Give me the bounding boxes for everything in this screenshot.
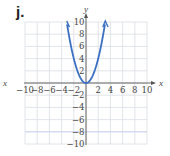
svg-text:2: 2 xyxy=(95,85,100,95)
svg-text:2: 2 xyxy=(79,66,84,76)
svg-text:6: 6 xyxy=(120,85,125,95)
parabola-chart: xxy −10−8−6−4−2246810−10−8−6−4−2246810 xyxy=(0,0,170,156)
svg-text:−8: −8 xyxy=(72,127,85,137)
svg-text:6: 6 xyxy=(79,41,84,51)
svg-text:−4: −4 xyxy=(72,102,85,112)
svg-text:−4: −4 xyxy=(55,85,68,95)
svg-text:−8: −8 xyxy=(31,85,44,95)
svg-text:−10: −10 xyxy=(67,139,85,149)
svg-text:8: 8 xyxy=(79,29,84,39)
svg-text:−2: −2 xyxy=(72,90,85,100)
svg-text:−6: −6 xyxy=(43,85,56,95)
parabola-curve xyxy=(67,21,108,83)
svg-text:y: y xyxy=(83,4,88,14)
svg-text:−6: −6 xyxy=(72,115,85,125)
svg-text:10: 10 xyxy=(74,17,85,27)
svg-text:x: x xyxy=(158,78,163,88)
svg-text:x: x xyxy=(2,78,7,88)
svg-text:10: 10 xyxy=(142,85,153,95)
svg-text:4: 4 xyxy=(108,85,113,95)
svg-text:8: 8 xyxy=(132,85,137,95)
svg-text:4: 4 xyxy=(79,54,84,64)
